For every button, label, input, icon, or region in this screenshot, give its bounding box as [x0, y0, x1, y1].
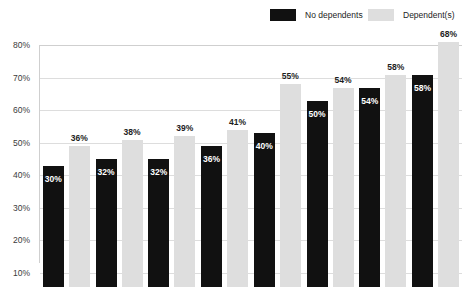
chart-legend: No dependents Dependent(s): [0, 0, 462, 30]
y-tick-10: 10%: [13, 268, 30, 277]
bar-dependents-1[interactable]: 36%: [69, 146, 90, 287]
legend-swatch-black-icon: [270, 9, 296, 21]
bar-value-label: 54%: [333, 76, 354, 85]
legend-label-dependents: Dependent(s): [403, 9, 455, 21]
bar-value-label: 58%: [385, 63, 406, 72]
bar-dependents-4[interactable]: 41%: [227, 130, 248, 287]
y-axis-labels: 80% 70% 60% 50% 40% 30% 20% 10%: [0, 45, 36, 263]
bar-no-dependents-4[interactable]: 36%: [201, 146, 222, 287]
bars-layer: 30%36%32%38%32%39%36%41%40%55%50%54%54%5…: [40, 45, 462, 263]
legend-label-no-dependents: No dependents: [305, 9, 363, 21]
bar-value-label: 55%: [280, 72, 301, 81]
bar-no-dependents-7[interactable]: 54%: [359, 88, 380, 287]
bar-value-label: 58%: [412, 84, 433, 93]
bar-no-dependents-3[interactable]: 32%: [148, 159, 169, 287]
bar-dependents-3[interactable]: 39%: [174, 136, 195, 287]
bar-value-label: 36%: [69, 134, 90, 143]
y-tick-40: 40%: [13, 171, 30, 180]
bar-dependents-2[interactable]: 38%: [122, 140, 143, 287]
y-tick-60: 60%: [13, 106, 30, 115]
bar-dependents-6[interactable]: 54%: [333, 88, 354, 287]
bar-dependents-7[interactable]: 58%: [385, 75, 406, 287]
bar-value-label: 68%: [438, 30, 459, 39]
bar-value-label: 54%: [359, 97, 380, 106]
bar-value-label: 41%: [227, 118, 248, 127]
bar-no-dependents-1[interactable]: 30%: [43, 166, 64, 287]
bar-value-label: 36%: [201, 155, 222, 164]
legend-item-no-dependents[interactable]: No dependents: [270, 8, 363, 22]
bar-value-label: 32%: [96, 168, 117, 177]
bar-no-dependents-6[interactable]: 50%: [307, 101, 328, 287]
bar-value-label: 38%: [122, 128, 143, 137]
y-tick-30: 30%: [13, 203, 30, 212]
bar-dependents-8[interactable]: 68%: [438, 42, 459, 287]
bar-dependents-5[interactable]: 55%: [280, 84, 301, 287]
y-tick-20: 20%: [13, 236, 30, 245]
y-tick-50: 50%: [13, 138, 30, 147]
legend-swatch-gray-icon: [368, 9, 394, 21]
bar-value-label: 30%: [43, 175, 64, 184]
plot-area: 30%36%32%38%32%39%36%41%40%55%50%54%54%5…: [40, 45, 462, 263]
legend-item-dependents[interactable]: Dependent(s): [368, 8, 455, 22]
bar-value-label: 50%: [307, 110, 328, 119]
bar-value-label: 32%: [148, 168, 169, 177]
y-tick-70: 70%: [13, 73, 30, 82]
bar-no-dependents-2[interactable]: 32%: [96, 159, 117, 287]
bar-no-dependents-8[interactable]: 58%: [412, 75, 433, 287]
y-tick-80: 80%: [13, 41, 30, 50]
bar-value-label: 40%: [254, 142, 275, 151]
bar-no-dependents-5[interactable]: 40%: [254, 133, 275, 287]
bar-value-label: 39%: [174, 124, 195, 133]
